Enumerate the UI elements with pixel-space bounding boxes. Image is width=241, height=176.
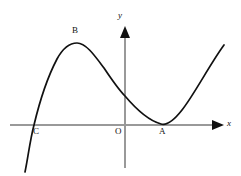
graph-figure: y x B C O A	[0, 0, 241, 176]
origin-label: O	[115, 127, 122, 136]
x-axis-label: x	[227, 119, 231, 128]
y-axis-label: y	[118, 11, 122, 20]
y-axis-arrowhead-icon	[120, 26, 130, 38]
point-label-a: A	[159, 127, 166, 136]
graph-canvas	[0, 0, 241, 176]
point-label-c: C	[33, 127, 39, 136]
point-label-b: B	[72, 26, 78, 35]
x-axis-arrowhead-icon	[212, 120, 224, 130]
